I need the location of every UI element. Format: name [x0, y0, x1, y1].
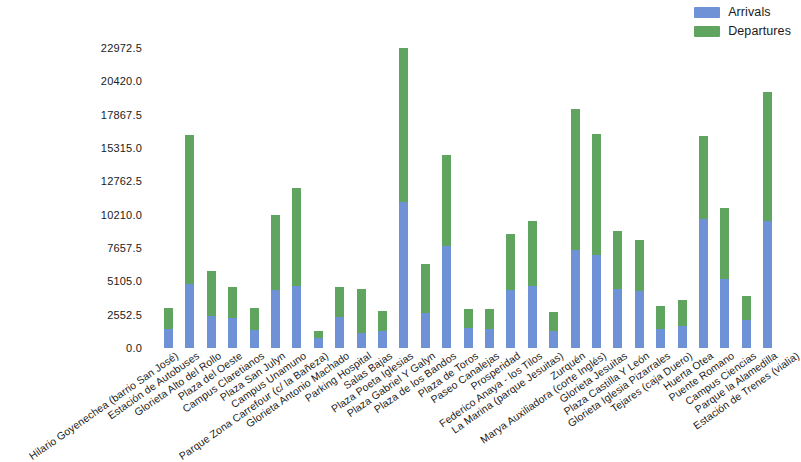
y-axis-tick: 20420.0	[101, 76, 142, 87]
y-axis-tick: 2552.5	[107, 309, 142, 320]
bar	[250, 308, 259, 348]
bar-segment-departures	[699, 136, 708, 218]
bar-segment-arrivals	[485, 329, 494, 348]
bar-segment-arrivals	[442, 246, 451, 348]
bar	[720, 208, 729, 348]
bar-segment-departures	[485, 309, 494, 329]
bar-segment-departures	[314, 331, 323, 339]
bar	[442, 155, 451, 348]
bar-segment-departures	[185, 135, 194, 285]
bar-segment-arrivals	[720, 279, 729, 348]
bar	[464, 309, 473, 348]
bar-segment-arrivals	[357, 333, 366, 348]
bar-segment-departures	[592, 134, 601, 255]
bar-segment-departures	[357, 289, 366, 333]
bar-segment-departures	[613, 231, 622, 288]
bar	[164, 308, 173, 348]
bar-segment-departures	[164, 308, 173, 330]
bar	[207, 271, 216, 348]
bar-segment-departures	[399, 48, 408, 202]
x-axis-labels: Hilario Goyenechea (barrio San José)Esta…	[157, 348, 799, 444]
y-axis-tick: 17867.5	[101, 109, 142, 120]
bar	[613, 231, 622, 348]
y-axis-tick: 22972.5	[101, 43, 142, 54]
bar-segment-arrivals	[250, 330, 259, 348]
bar	[549, 312, 558, 348]
bar-segment-departures	[335, 287, 344, 316]
bar-segment-departures	[228, 287, 237, 318]
bar-segment-departures	[742, 296, 751, 320]
bar	[228, 287, 237, 348]
bar-segment-departures	[378, 311, 387, 331]
bar-segment-arrivals	[742, 320, 751, 348]
bar-segment-arrivals	[613, 289, 622, 348]
bar	[528, 221, 537, 348]
bar	[656, 306, 665, 348]
bar-segment-departures	[528, 221, 537, 286]
bar-segment-arrivals	[528, 286, 537, 348]
bar-segment-arrivals	[207, 316, 216, 348]
bar-segment-arrivals	[335, 317, 344, 348]
y-axis-tick: 10210.0	[101, 209, 142, 220]
bar-segment-departures	[571, 109, 580, 250]
legend-swatch-departures	[694, 26, 720, 37]
y-axis-tick: 7657.5	[107, 243, 142, 254]
y-axis-tick: 5105.0	[107, 276, 142, 287]
bar	[678, 300, 687, 348]
bar	[506, 234, 515, 348]
bar-segment-arrivals	[164, 329, 173, 348]
y-axis-tick: 15315.0	[101, 143, 142, 154]
legend-item-arrivals: Arrivals	[694, 6, 791, 19]
bar	[335, 287, 344, 348]
bar-segment-departures	[549, 312, 558, 331]
bar-segment-arrivals	[399, 202, 408, 348]
bar-segment-arrivals	[185, 284, 194, 348]
bar-segment-arrivals	[378, 331, 387, 348]
bar-segment-arrivals	[592, 255, 601, 348]
bar-segment-arrivals	[228, 318, 237, 348]
y-axis-tick: 0.0	[126, 343, 142, 354]
bar-segment-arrivals	[314, 338, 323, 348]
bar	[571, 109, 580, 348]
bar-segment-arrivals	[271, 290, 280, 348]
legend-label-departures: Departures	[728, 25, 791, 38]
bar-segment-arrivals	[464, 328, 473, 348]
bar-segment-arrivals	[656, 329, 665, 348]
plot-area	[157, 10, 793, 348]
bar-segment-departures	[763, 92, 772, 221]
bar	[357, 289, 366, 348]
bar-segment-departures	[464, 309, 473, 329]
bar-segment-departures	[250, 308, 259, 331]
bar	[378, 311, 387, 348]
bar	[485, 309, 494, 348]
bar	[271, 215, 280, 348]
bar-segment-departures	[292, 188, 301, 286]
bar	[763, 92, 772, 348]
bar	[635, 240, 644, 348]
bar	[292, 188, 301, 348]
bar-segment-departures	[271, 215, 280, 289]
bar-segment-arrivals	[571, 250, 580, 348]
legend-swatch-arrivals	[694, 7, 720, 18]
bar-segment-arrivals	[506, 290, 515, 348]
y-axis: 0.02552.55105.07657.510210.012762.515315…	[0, 0, 152, 358]
bar-segment-departures	[506, 234, 515, 290]
bar-segment-arrivals	[549, 331, 558, 348]
legend-item-departures: Departures	[694, 25, 791, 38]
bar-segment-arrivals	[763, 221, 772, 348]
bar-segment-arrivals	[678, 326, 687, 348]
bar	[421, 264, 430, 348]
y-axis-tick: 12762.5	[101, 176, 142, 187]
bar-segment-arrivals	[699, 219, 708, 348]
bar	[185, 134, 194, 348]
bar	[699, 136, 708, 348]
bar-segment-arrivals	[635, 291, 644, 348]
bar	[592, 134, 601, 348]
bar-segment-departures	[720, 208, 729, 279]
bar	[742, 296, 751, 348]
x-axis-tick-label: Hilario Goyenechea (barrio San José)	[27, 350, 180, 462]
bar	[314, 331, 323, 348]
bar-segment-arrivals	[421, 313, 430, 348]
chart-legend: Arrivals Departures	[694, 6, 791, 38]
